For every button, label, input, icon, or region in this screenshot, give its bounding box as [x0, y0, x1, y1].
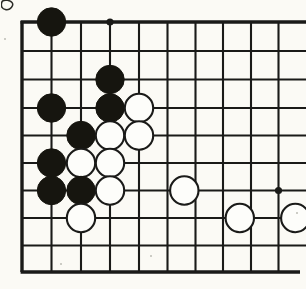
go-board-diagram — [0, 0, 306, 289]
white-stone-c3-r8[interactable] — [67, 204, 95, 232]
white-stone-c4-r5[interactable] — [96, 121, 124, 149]
black-stone-c4-r4[interactable] — [96, 94, 124, 122]
grid-lines — [21, 21, 306, 272]
go-board[interactable] — [0, 0, 306, 289]
white-stone-c6-r7[interactable] — [170, 176, 198, 204]
black-stone-c4-r3[interactable] — [96, 65, 124, 93]
white-stone-c8-r8[interactable] — [226, 204, 254, 232]
black-stone-c3-r7[interactable] — [67, 176, 95, 204]
white-stone-c3-r6[interactable] — [67, 149, 95, 177]
hoshi-top-left-area — [106, 18, 113, 25]
white-stone-c5-r5[interactable] — [125, 121, 153, 149]
white-stone-c4-r7[interactable] — [96, 176, 124, 204]
hoshi-right-lower — [275, 187, 282, 194]
black-stone-c2-r4[interactable] — [37, 94, 65, 122]
black-stone-c2-r7[interactable] — [37, 176, 65, 204]
white-stone-c5-r4[interactable] — [125, 94, 153, 122]
black-stone-c3-r5[interactable] — [67, 121, 95, 149]
white-stone-c4-r6[interactable] — [96, 149, 124, 177]
black-stone-c2-r6[interactable] — [37, 149, 65, 177]
black-stone-c2-r1[interactable] — [37, 8, 65, 36]
white-stone-c10-r8[interactable] — [281, 204, 306, 232]
stones-layer[interactable] — [37, 8, 306, 232]
